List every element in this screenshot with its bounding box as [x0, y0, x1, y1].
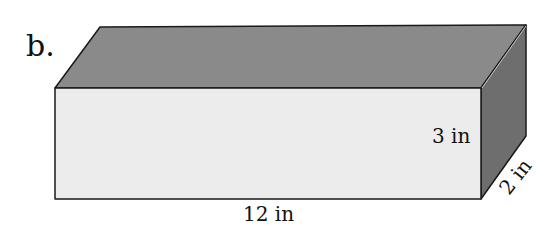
height-label: 3 in	[432, 124, 470, 148]
prism-diagram: b. 3 in 12 in 2 in	[0, 0, 558, 230]
front-face	[55, 88, 481, 199]
length-label: 12 in	[243, 202, 294, 226]
top-face	[55, 25, 526, 88]
problem-label: b.	[26, 28, 55, 63]
